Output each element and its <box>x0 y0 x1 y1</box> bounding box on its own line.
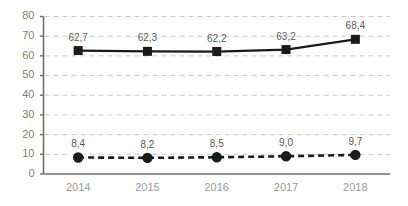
data-point-s2-2014 <box>73 152 83 162</box>
data-label-s1-2016: 62,2 <box>207 33 227 44</box>
data-label-s2-2016: 8,5 <box>210 138 224 149</box>
y-tick-label-30: 30 <box>22 108 34 120</box>
y-axis-tick-labels: 01020304050607080 <box>22 9 34 179</box>
data-label-s1-2018: 68,4 <box>346 20 366 31</box>
data-point-s1-2014 <box>74 46 83 55</box>
x-axis-tick-labels: 20142015201620172018 <box>66 181 368 193</box>
x-tick-label-2017: 2017 <box>274 181 298 193</box>
data-label-s2-2017: 9,0 <box>279 137 293 148</box>
series-point-labels-group: 62,762,362,263,268,48,48,28,59,09,7 <box>68 20 365 150</box>
x-tick-label-2018: 2018 <box>343 181 367 193</box>
data-label-s1-2017: 63,2 <box>276 31 296 42</box>
x-tick-label-2016: 2016 <box>205 181 229 193</box>
data-point-s1-2015 <box>143 47 152 56</box>
y-tick-label-60: 60 <box>22 49 34 61</box>
x-tick-label-2015: 2015 <box>135 181 159 193</box>
data-label-s2-2014: 8,4 <box>71 138 85 149</box>
y-tick-label-70: 70 <box>22 29 34 41</box>
data-label-s1-2015: 62,3 <box>138 32 158 43</box>
y-tick-label-0: 0 <box>28 167 34 179</box>
data-point-s2-2016 <box>212 152 222 162</box>
data-point-s2-2017 <box>281 151 291 161</box>
x-tick-label-2014: 2014 <box>66 181 90 193</box>
data-point-s1-2017 <box>282 45 291 54</box>
y-tick-label-50: 50 <box>22 68 34 80</box>
line-chart: 01020304050607080 62,762,362,263,268,48,… <box>0 0 408 206</box>
data-label-s1-2014: 62,7 <box>68 32 88 43</box>
data-point-s1-2018 <box>351 35 360 44</box>
data-label-s2-2015: 8,2 <box>140 139 154 150</box>
data-point-s1-2016 <box>212 47 221 56</box>
y-tick-label-10: 10 <box>22 147 34 159</box>
data-point-s2-2018 <box>350 150 360 160</box>
chart-canvas: 01020304050607080 62,762,362,263,268,48,… <box>0 0 408 206</box>
data-label-s2-2018: 9,7 <box>348 136 362 147</box>
data-point-s2-2015 <box>142 153 152 163</box>
y-tick-label-40: 40 <box>22 88 34 100</box>
y-tick-label-20: 20 <box>22 128 34 140</box>
y-tick-label-80: 80 <box>22 9 34 21</box>
